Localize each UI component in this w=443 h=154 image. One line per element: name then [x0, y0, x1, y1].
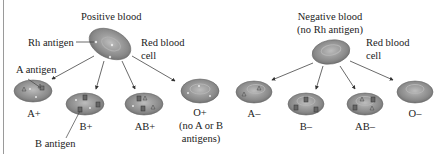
cell-o-minus: [397, 81, 433, 103]
b-antigen-label: B antigen: [35, 138, 76, 149]
rh-antigen-icon: [95, 41, 97, 43]
arrow-to-o-minus: [350, 61, 393, 80]
arrow-to-ab-plus: [122, 61, 135, 89]
negative-blood-title-line1: Negative blood: [290, 11, 370, 22]
b-antigen-icon: [371, 97, 375, 102]
cell-b-plus: [66, 93, 104, 115]
positive-blood-title: Positive blood: [81, 11, 141, 22]
negative-rbc-label-line2: cell: [366, 50, 381, 61]
type-o-plus-note-line1: (no A or B: [172, 120, 230, 131]
a-antigen-label: A antigen: [16, 64, 57, 75]
type-o-plus-note-line2: antigens): [172, 133, 230, 144]
arrow-to-ab-minus: [340, 66, 355, 89]
positive-main-cell: [84, 22, 136, 66]
b-antigen-icon: [353, 105, 357, 110]
b-antigen-icon: [96, 102, 100, 107]
arrow-to-a-minus: [272, 63, 313, 80]
negative-blood-title-line2: (no Rh antigen): [290, 24, 370, 35]
type-b-plus-label: B+: [75, 121, 97, 132]
type-o-minus-label: O–: [403, 108, 427, 119]
b-antigen-icon: [314, 107, 318, 112]
cell-a-plus: [14, 80, 52, 102]
cell-o-plus: [181, 79, 219, 103]
type-a-plus-label: A+: [23, 108, 45, 119]
b-antigen-icon: [141, 106, 145, 111]
positive-rbc-label-line1: Red blood: [141, 37, 184, 48]
cell-b-minus: [288, 93, 324, 115]
cell-ab-plus: [125, 93, 163, 115]
arrow-to-b-minus: [316, 66, 323, 89]
b-antigen-icon: [83, 95, 87, 100]
rh-antigen-icon: [109, 56, 111, 58]
type-b-minus-label: B–: [294, 121, 318, 132]
rh-antigen-label: Rh antigen: [28, 37, 74, 48]
arrow-to-a-plus: [52, 56, 94, 79]
rh-antigen-icon: [111, 44, 113, 46]
type-ab-plus-label: AB+: [131, 121, 159, 132]
b-antigen-icon: [137, 96, 141, 101]
type-o-plus-label: O+: [180, 107, 220, 118]
positive-rbc-label-line2: cell: [141, 50, 156, 61]
negative-main-cell: [310, 37, 352, 67]
arrow-to-b-plus: [96, 61, 104, 89]
cell-ab-minus: [347, 93, 383, 115]
type-ab-minus-label: AB–: [350, 121, 380, 132]
type-a-minus-label: A–: [242, 108, 266, 119]
cell-a-minus: [236, 81, 272, 103]
b-antigen-icon: [304, 97, 308, 102]
negative-rbc-label-line1: Red blood: [366, 37, 409, 48]
b-antigen-icon: [294, 105, 298, 110]
